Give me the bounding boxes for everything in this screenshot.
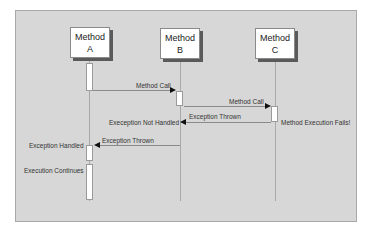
- object-b-line2: B: [161, 44, 199, 56]
- arrowhead-left-icon: [180, 119, 186, 125]
- object-c-line1: Method: [256, 32, 294, 44]
- object-a-line2: A: [71, 43, 109, 55]
- message-line-a-to-b: [93, 90, 171, 91]
- lifeline-b: [180, 59, 181, 201]
- note-method-execution-fails: Method Execution Fails!: [281, 119, 350, 127]
- object-method-a: Method A: [70, 27, 110, 58]
- arrowhead-right-icon: [265, 103, 271, 109]
- activation-a-3: [86, 164, 93, 200]
- note-exception-not-handled: Exeception Not Handled: [109, 119, 179, 127]
- activation-a-2: [86, 145, 93, 161]
- note-exception-handled: Exception Handled: [29, 142, 84, 150]
- message-label-method-call-2: Method Call: [229, 98, 264, 106]
- lifeline-c: [275, 58, 276, 201]
- object-method-c: Method C: [255, 28, 295, 59]
- arrowhead-left-icon: [94, 142, 100, 148]
- message-label-exception-thrown-2: Exception Thrown: [102, 137, 154, 145]
- activation-a-1: [86, 63, 93, 91]
- object-c-line2: C: [256, 44, 294, 56]
- note-execution-continues: Execution Continues: [24, 167, 84, 175]
- activation-c-1: [271, 106, 278, 122]
- message-label-exception-thrown-1: Exception Thrown: [189, 113, 241, 121]
- message-label-method-call-1: Method Call: [136, 82, 171, 90]
- object-method-b: Method B: [160, 28, 200, 59]
- object-a-line1: Method: [71, 31, 109, 43]
- message-line-b-to-c: [184, 106, 266, 107]
- message-line-c-to-b: [186, 122, 271, 123]
- object-b-line1: Method: [161, 32, 199, 44]
- message-line-b-to-a: [99, 145, 180, 146]
- activation-b-1: [176, 91, 183, 106]
